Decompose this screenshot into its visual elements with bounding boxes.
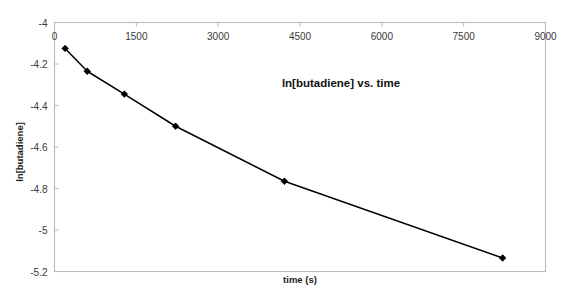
x-axis-ticks [55, 23, 546, 27]
x-tick-label: 9000 [534, 31, 557, 42]
chart-container: 0150030004500600075009000 -4-4.2-4.4-4.6… [0, 0, 568, 298]
y-tick-label: -4 [39, 18, 48, 29]
y-tick-label: -5.2 [30, 267, 48, 278]
x-tick-label: 3000 [207, 31, 230, 42]
data-point-marker [172, 123, 179, 130]
x-tick-label: 7500 [453, 31, 476, 42]
data-point-marker [499, 255, 506, 262]
y-axis-tick-labels: -4-4.2-4.4-4.6-4.8-5-5.2 [30, 18, 48, 278]
x-tick-label: 0 [52, 31, 58, 42]
y-tick-label: -5 [39, 225, 48, 236]
ln-butadiene-vs-time-chart: 0150030004500600075009000 -4-4.2-4.4-4.6… [0, 0, 568, 298]
x-tick-label: 4500 [289, 31, 312, 42]
y-tick-label: -4.2 [30, 59, 48, 70]
x-axis-tick-labels: 0150030004500600075009000 [52, 31, 557, 42]
plot-frame [55, 23, 546, 272]
y-tick-label: -4.8 [30, 184, 48, 195]
chart-title: ln[butadiene] vs. time [282, 77, 400, 89]
y-tick-label: -4.6 [30, 142, 48, 153]
data-point-marker [281, 178, 288, 185]
x-tick-label: 1500 [125, 31, 148, 42]
x-axis-title: time (s) [283, 274, 317, 285]
y-tick-label: -4.4 [30, 101, 48, 112]
x-tick-label: 6000 [371, 31, 394, 42]
y-axis-ticks [55, 23, 59, 272]
y-axis-title: ln[butadiene] [14, 122, 25, 182]
